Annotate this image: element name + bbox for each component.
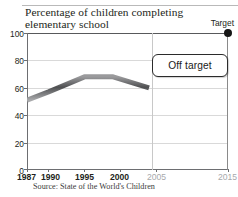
x-axis-label-1987: 1987 xyxy=(17,172,36,182)
y-axis-label-20: 20 xyxy=(0,139,24,149)
x-axis-label-1990: 1990 xyxy=(41,172,60,182)
y-axis-label-100: 100 xyxy=(0,29,24,39)
status-badge[interactable]: Off target xyxy=(152,54,228,77)
chart-card: Percentage of children completing elemen… xyxy=(0,0,238,197)
source-note: Source: State of the World's Children xyxy=(33,182,155,191)
y-axis-label-40: 40 xyxy=(0,111,24,121)
target-point-marker[interactable] xyxy=(224,29,232,37)
y-axis-label-60: 60 xyxy=(0,84,24,94)
x-axis-label-1995: 1995 xyxy=(75,172,94,182)
y-axis-label-80: 80 xyxy=(0,56,24,66)
target-point-label: Target xyxy=(186,18,234,28)
chart-title-line-1: Percentage of children completing xyxy=(25,6,183,18)
x-axis-label-2005: 2005 xyxy=(147,172,166,182)
x-axis-label-2000: 2000 xyxy=(110,172,129,182)
status-badge-label: Off target xyxy=(168,60,211,71)
x-axis-label-2015: 2015 xyxy=(218,172,237,182)
